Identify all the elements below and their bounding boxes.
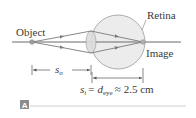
image-distance-dimension [92,68,143,83]
svg-text:so: so [55,63,63,77]
eye-lens [86,31,96,53]
image-distance-equation: si=deye≈2.5 cm [80,83,154,97]
object-label: Object [16,26,45,38]
retina-leader-line [142,20,146,30]
image-point [141,40,146,45]
object-distance-dimension: so [32,63,91,77]
object-point [30,40,35,45]
panel-label: A [22,101,28,110]
retina-label: Retina [147,9,176,21]
eye-optics-diagram: Object Retina Image so si=deye≈2.5 cm A [0,0,196,118]
so-subscript: o [59,69,63,77]
image-label: Image [146,47,174,59]
ray-lower-incoming [32,42,91,53]
